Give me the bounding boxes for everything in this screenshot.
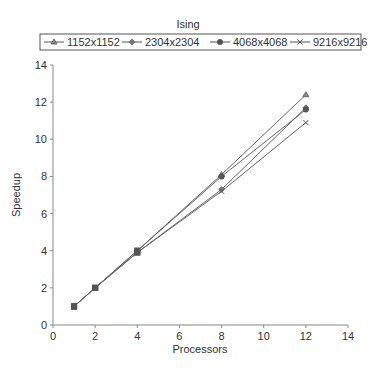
- line-chart: Ising1152x11522304x23044068x40689216x921…: [0, 0, 377, 370]
- x-tick-label: 0: [50, 330, 56, 342]
- data-point-marker-icon: [71, 303, 77, 309]
- triangle-marker-icon: [303, 92, 309, 97]
- legend-label: 2304x2304: [145, 36, 199, 48]
- y-tick-label: 10: [35, 133, 47, 145]
- y-tick-label: 14: [35, 59, 47, 71]
- y-tick-label: 4: [41, 245, 47, 257]
- x-tick-label: 8: [219, 330, 225, 342]
- circle-marker-icon: [303, 107, 309, 113]
- x-tick-label: 10: [258, 330, 270, 342]
- data-point-marker-icon: [134, 250, 140, 256]
- x-tick-label: 12: [300, 330, 312, 342]
- legend-label: 1152x1152: [67, 36, 120, 48]
- circle-marker-icon: [217, 39, 223, 45]
- x-marker-icon: [303, 120, 308, 125]
- x-tick-label: 14: [342, 330, 354, 342]
- chart-container: Ising1152x11522304x23044068x40689216x921…: [0, 0, 377, 370]
- y-tick-label: 12: [35, 96, 47, 108]
- y-tick-label: 8: [41, 170, 47, 182]
- x-axis-label: Processors: [172, 343, 228, 355]
- x-tick-label: 4: [134, 330, 140, 342]
- legend-label: 4068x4068: [233, 36, 287, 48]
- y-tick-label: 0: [41, 319, 47, 331]
- data-point-marker-icon: [92, 285, 98, 291]
- chart-title: Ising: [176, 18, 199, 30]
- circle-marker-icon: [219, 173, 225, 179]
- series-line: [74, 123, 306, 307]
- y-tick-label: 2: [41, 282, 47, 294]
- legend-label: 9216x9216: [313, 36, 367, 48]
- y-axis-label: Speedup: [10, 173, 22, 217]
- x-tick-label: 2: [92, 330, 98, 342]
- x-tick-label: 6: [176, 330, 182, 342]
- y-tick-label: 6: [41, 208, 47, 220]
- series-line: [74, 95, 306, 307]
